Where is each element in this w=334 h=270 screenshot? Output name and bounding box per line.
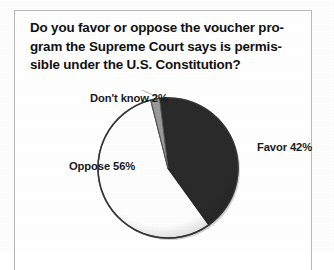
pie-label-oppose: Oppose 56% [69, 160, 135, 172]
pie-chart: Don't know 2% Favor 42% Oppose 56% [14, 10, 312, 252]
pie-chart-svg [14, 10, 312, 252]
pie-label-dont-know: Don't know 2% [90, 92, 168, 104]
pie-label-favor: Favor 42% [257, 141, 312, 153]
